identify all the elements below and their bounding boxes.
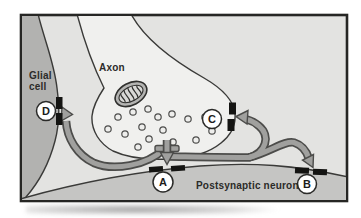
vesicle [115,114,121,120]
vesicle [155,114,161,120]
figure-stage: D C A B Axon Glial cell Postsynaptic neu… [0,0,361,218]
vesicle [122,131,128,137]
vesicle [139,124,145,130]
site-letter-b: B [303,178,311,190]
receptor-site-b-block-right [313,169,327,176]
receptor-site-d-block-upper [56,97,63,109]
svg-text:cell: cell [29,81,47,92]
receptor-site-c-block-upper [229,103,236,115]
vesicle [146,136,152,142]
receptor-site-a-block-right [171,165,185,171]
site-letter-c: C [208,113,216,125]
receptor-site-c-block-lower [228,119,235,131]
vesicle [169,111,175,117]
site-letter-d: D [42,105,50,117]
postsynaptic-neuron-label: Postsynaptic neuron [196,180,299,191]
vesicle [185,116,191,122]
vesicle [105,126,111,132]
vesicle [130,109,136,115]
receptor-site-b-block-left [295,167,309,174]
axon-label: Axon [99,62,125,73]
receptor-site-d-block-lower [56,113,63,125]
svg-text:Glial: Glial [29,70,52,81]
site-letter-a: A [159,176,167,188]
vesicle [160,127,166,133]
arrow-horizontal-band [168,157,250,158]
synapse-diagram: D C A B Axon Glial cell Postsynaptic neu… [0,0,361,218]
vesicle [193,137,199,143]
vesicle [145,106,151,112]
vesicle [135,144,141,150]
